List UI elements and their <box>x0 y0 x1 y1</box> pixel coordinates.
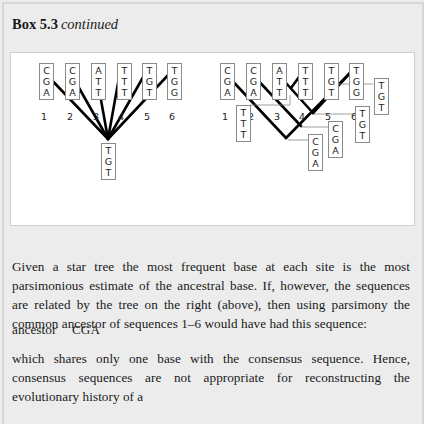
paragraph-2: which shares only one base with the cons… <box>12 349 410 406</box>
node-seq-3-4: TTT <box>236 105 251 142</box>
star-label-3: 3 <box>93 111 99 122</box>
node-seq-34-56: TGT <box>355 106 370 143</box>
box-subtitle: continued <box>61 16 118 32</box>
star-label-1: 1 <box>41 111 47 122</box>
rooted-seq-3: ATT <box>272 63 287 100</box>
rooted-seq-4: TTT <box>298 63 313 100</box>
star-seq-5: TGT <box>142 63 157 100</box>
star-seq-3: ATT <box>91 63 106 100</box>
ancestor-line: ancestorCGA <box>12 320 100 339</box>
star-seq-6: TGG <box>167 63 182 100</box>
star-label-5: 5 <box>144 111 150 122</box>
rooted-label-1: 1 <box>222 111 228 122</box>
star-seq-4: TTT <box>117 63 132 100</box>
rooted-seq-5: TGT <box>324 63 339 100</box>
star-label-6: 6 <box>169 111 175 122</box>
star-seq-1: CGA <box>39 63 54 100</box>
rooted-seq-2: CGA <box>246 63 261 100</box>
node-seq-2-3456: CGA <box>328 121 343 158</box>
box-title: Box 5.3continued <box>12 16 118 33</box>
star-seq-2: CGA <box>65 63 80 100</box>
ancestor-label: ancestor <box>12 320 72 339</box>
rooted-seq-1: CGA <box>220 63 235 100</box>
rooted-label-4: 4 <box>299 111 305 122</box>
node-seq-root: CGA <box>308 134 323 171</box>
star-label-4: 4 <box>118 111 124 122</box>
rooted-seq-6: TGG <box>349 63 364 100</box>
box-number: Box 5.3 <box>12 16 58 32</box>
star-root-seq: TGT <box>101 143 116 180</box>
figure-panel: CGA CGA ATT TTT TGT TGG 1 2 3 4 5 6 TGT … <box>10 52 415 226</box>
rooted-label-3: 3 <box>274 111 280 122</box>
node-seq-5-6: TGT <box>374 78 389 115</box>
ancestor-sequence: CGA <box>72 322 100 337</box>
star-label-2: 2 <box>67 111 73 122</box>
